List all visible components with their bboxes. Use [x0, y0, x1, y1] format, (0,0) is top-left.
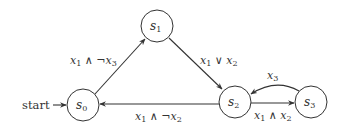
- state-s3: s3: [295, 86, 327, 118]
- state-diagram: start x1 ∧ ¬x3 x1 ∨ x2 x1 ∧ ¬x2 x3 x1 ∧ …: [0, 0, 344, 128]
- edge-label: x1 ∧ ¬x3: [70, 54, 117, 68]
- state-s1: s1: [141, 10, 173, 42]
- state-s2: s2: [219, 86, 251, 118]
- edge-label: x1 ∧ ¬x2: [135, 110, 182, 124]
- edge-s2-s0: x1 ∧ ¬x2: [100, 104, 219, 124]
- edge-label: x1 ∧ x2: [254, 109, 292, 123]
- transition-arrow: [251, 85, 299, 94]
- edge-label: x1 ∨ x2: [200, 54, 238, 68]
- start-label: start: [22, 98, 50, 112]
- edge-s3-s2: x3: [251, 69, 299, 94]
- start-marker: start: [22, 98, 66, 112]
- edge-s1-s2: x1 ∨ x2: [169, 38, 238, 89]
- state-s0: s0: [67, 89, 99, 121]
- edge-s2-s3: x1 ∧ x2: [251, 103, 294, 123]
- edge-s0-s1: x1 ∧ ¬x3: [70, 39, 145, 94]
- edge-label: x3: [267, 69, 278, 83]
